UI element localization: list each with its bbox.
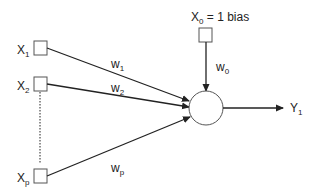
input-node-x1: X1 [17,41,47,59]
input-box-xp [34,169,47,183]
input-box-x1 [34,41,47,55]
svg-text:X1: X1 [17,43,30,59]
bias-box [199,28,212,42]
weight-label-w1: w1 [110,57,125,73]
neuron-node [189,91,223,125]
input-node-xp: Xp [17,169,47,187]
weight-label-wp: wp [110,161,125,177]
input-box-x2 [34,77,47,91]
svg-text:X0 = 1 bias: X0 = 1 bias [191,10,249,26]
weight-label-w2: w2 [110,81,125,97]
bias-node: X0 = 1 bias [191,10,249,42]
svg-text:Xp: Xp [17,171,30,187]
svg-text:X2: X2 [17,79,30,95]
weight-label-w0: w0 [215,60,230,76]
perceptron-diagram: X1 X2 Xp w1 w2 wp X0 = 1 bias w0 Y1 [0,0,315,194]
output-label-y1: Y1 [290,101,303,117]
input-node-x2: X2 [17,77,47,95]
